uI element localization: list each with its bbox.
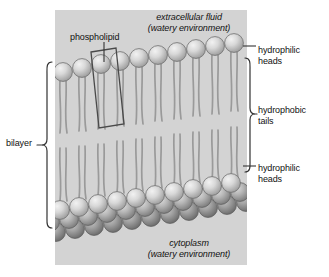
label-cytoplasm: cytoplasm (watery environment) [133,238,245,259]
label-hydrophobic-tails: hydrophobic tails [258,105,306,126]
bilayer-bracket [37,62,52,228]
label-phospholipid: phospholipid [70,32,119,43]
label-hydrophilic-heads-top: hydrophilic heads [258,45,300,66]
hydrophobic-tails-bracket [245,58,257,172]
label-extracellular-fluid: extracellular fluid (watery environment) [133,12,245,33]
membrane-contents [41,34,256,242]
label-hydrophilic-heads-bottom: hydrophilic heads [258,163,300,184]
phospholipid-bilayer-figure: extracellular fluid (watery environment)… [0,0,329,277]
diagram-graphics [0,0,329,277]
label-bilayer: bilayer [6,138,32,149]
